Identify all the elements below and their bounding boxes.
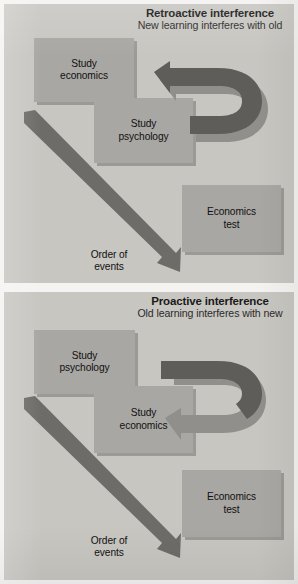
retroactive-interference-arrow-layer <box>4 4 294 283</box>
heading-title: Proactive interference <box>134 295 286 308</box>
heading-subtitle: Old learning interferes with new <box>134 308 286 320</box>
panel-proactive: Study psychology Study economics Economi… <box>4 292 294 580</box>
heading-title: Retroactive interference <box>134 7 286 20</box>
heading-subtitle: New learning interferes with old <box>134 20 286 32</box>
heading-retroactive: Retroactive interference New learning in… <box>134 7 286 32</box>
order-label-line1: Order of <box>91 249 128 260</box>
order-of-events-label: Order of events <box>66 249 152 274</box>
order-of-events-label: Order of events <box>66 535 152 560</box>
panel-retroactive: Study economics Study psychology Economi… <box>4 4 294 283</box>
order-label-line2: events <box>94 547 123 558</box>
interference-figure: Study economics Study psychology Economi… <box>0 0 298 584</box>
order-label-line2: events <box>94 261 123 272</box>
proactive-interference-arrow <box>161 361 262 419</box>
heading-proactive: Proactive interference Old learning inte… <box>134 295 286 320</box>
retroactive-interference-arrow <box>154 61 262 134</box>
order-label-line1: Order of <box>91 535 128 546</box>
